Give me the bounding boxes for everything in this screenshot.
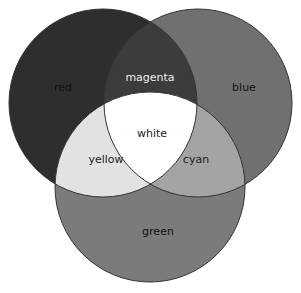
label-red: red (54, 81, 72, 94)
label-green: green (142, 225, 174, 238)
label-magenta: magenta (125, 71, 174, 84)
label-white: white (137, 127, 167, 140)
label-cyan: cyan (183, 153, 209, 166)
label-yellow: yellow (88, 153, 123, 166)
label-blue: blue (232, 81, 256, 94)
venn-diagram: red magenta blue white yellow cyan green (0, 0, 301, 293)
